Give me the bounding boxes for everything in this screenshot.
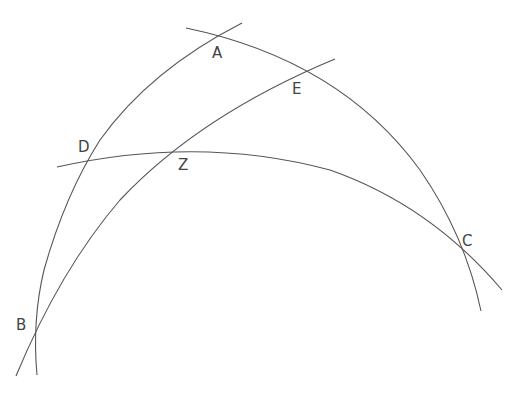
point-label-C: C bbox=[462, 232, 472, 250]
point-label-Z: Z bbox=[178, 156, 188, 174]
arc-B-Z-E bbox=[16, 59, 335, 376]
point-label-E: E bbox=[292, 80, 301, 98]
point-label-A: A bbox=[212, 44, 223, 62]
arc-A-E-C bbox=[186, 28, 481, 311]
point-label-D: D bbox=[78, 138, 90, 156]
arc-B-D-A bbox=[36, 23, 242, 375]
arc-D-Z-C bbox=[57, 152, 502, 290]
point-label-B: B bbox=[16, 316, 26, 334]
geometry-diagram: A E D Z C B bbox=[0, 0, 509, 395]
